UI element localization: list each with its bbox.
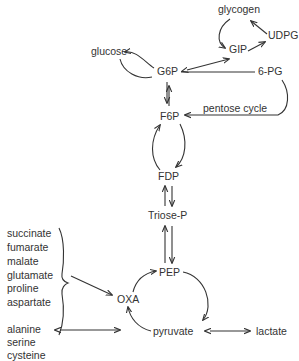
arrow-f6p-to-fdp [176, 124, 185, 167]
node-glucose: glucose [91, 45, 127, 57]
node-lactate: lactate [256, 325, 287, 337]
arrow-g6p-gip [187, 59, 229, 70]
arrow-precursors-to-oxa [71, 276, 112, 295]
precursor-cysteine: cysteine [7, 349, 46, 361]
node-fdp: FDP [158, 170, 179, 182]
precursor-serine: serine [7, 336, 36, 348]
arrow-g6p-to-glucose [125, 52, 154, 68]
node-g6p: G6P [157, 65, 178, 77]
precursor-malate: malate [7, 255, 39, 267]
arrow-pyruvate-to-oxa [128, 307, 151, 331]
node-pep: PEP [159, 266, 180, 278]
precursor-proline: proline [7, 282, 39, 294]
label-pentose-cycle: pentose cycle [203, 102, 267, 114]
arrow-udpg-to-glycogen [251, 21, 267, 34]
node-pyruvate: pyruvate [153, 325, 193, 337]
brace-oxa-precursors [59, 228, 68, 335]
arrow-oxa-to-pep [133, 271, 156, 292]
precursor-aspartate: aspartate [7, 296, 51, 308]
precursor-glutamate: glutamate [7, 269, 53, 281]
node-triose-p: Triose-P [148, 209, 187, 221]
node-gip: GIP [229, 43, 247, 55]
precursor-succinate: succinate [7, 227, 52, 239]
node-f6p: F6P [160, 110, 179, 122]
metabolic-pathway-diagram: glycogen UDPG GIP glucose G6P 6-PG pento… [0, 0, 299, 361]
arrow-gip-to-udpg [248, 42, 265, 51]
arrow-pep-to-pyruvate [183, 272, 208, 320]
node-oxa: OXA [117, 293, 139, 305]
precursor-alanine: alanine [7, 323, 41, 335]
pyruvate-precursor-list: alanine serine cysteine [7, 323, 46, 361]
arrow-fdp-to-f6p [153, 125, 161, 170]
precursor-fumarate: fumarate [7, 241, 49, 253]
node-glycogen: glycogen [218, 3, 260, 15]
oxa-precursor-list: succinate fumarate malate glutamate prol… [7, 227, 53, 308]
node-6pg: 6-PG [258, 65, 283, 77]
node-udpg: UDPG [268, 29, 298, 41]
arrow-glucose-to-g6p-curve [120, 59, 152, 78]
